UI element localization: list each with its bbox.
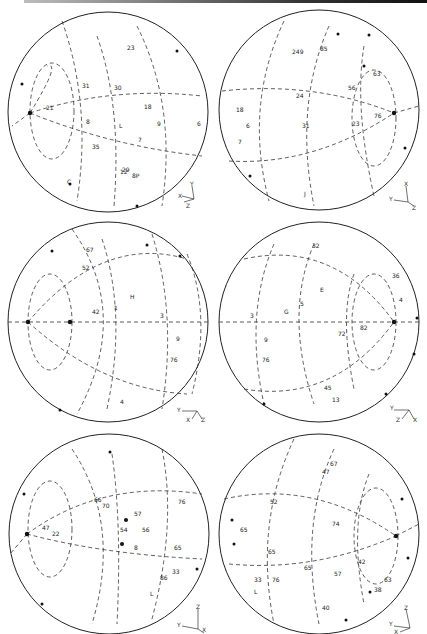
- pole-label: 65: [304, 564, 312, 571]
- pole-label: 70: [102, 502, 110, 509]
- pole-label: 76: [272, 576, 280, 583]
- pole-label: 74: [332, 520, 340, 527]
- pole-label: 76: [170, 356, 178, 363]
- pole-label: 6: [246, 122, 250, 129]
- pole-label: 33: [172, 568, 180, 575]
- pole-label: 40: [322, 604, 330, 611]
- axis-label: Z: [186, 202, 190, 209]
- pole-label: 18: [236, 106, 244, 113]
- pole-label: 13: [332, 396, 340, 403]
- pole-label: 7: [238, 138, 242, 145]
- pole-label: 3: [160, 312, 164, 319]
- axis-label: Y: [176, 621, 181, 628]
- pole-label: 4: [399, 296, 403, 303]
- axis-triad-icon: [182, 609, 204, 633]
- pole-label: E: [320, 286, 324, 293]
- stereogram-middle-left: 42 H 1 3 9 76 52 67 4 Y X Z: [2, 214, 212, 424]
- pole-label: 7: [138, 136, 142, 143]
- axis-label: Y: [388, 620, 393, 627]
- pole-label: L: [119, 122, 123, 129]
- pole-label: 9: [157, 120, 161, 127]
- axis-label: X: [413, 416, 417, 423]
- pole-label: L: [150, 590, 154, 597]
- pole-label: J: [303, 190, 306, 198]
- stereogram-bottom-right: 74 47 67 52 65 33 76 65 57 42 40 65 38 6…: [214, 424, 424, 634]
- stereogram-middle-right: 3 G 5 E 72 82 9 76 32 36 4 45 13 Y Z X: [214, 214, 424, 424]
- pole-label: 36: [392, 272, 400, 279]
- stereogram-top-left: 23 31 21 18 9 8 7 35 L 8P 6 12 30 29 C Y…: [2, 6, 212, 216]
- pole-label: 5: [300, 300, 304, 307]
- pole-label: 65: [174, 544, 182, 551]
- pole-label: 67: [330, 460, 338, 467]
- axis-label: X: [404, 180, 408, 187]
- stereogram-bottom-left: 47 22 66 70 54 57 56 65 8 86 33 76 L Z Y…: [2, 424, 212, 634]
- pole-label: 1: [114, 304, 118, 311]
- pole-label: 21: [46, 104, 54, 111]
- pole-label: 9: [264, 336, 268, 343]
- pole-label: 9: [176, 335, 180, 342]
- axis-label: Z: [404, 604, 408, 611]
- top-border-bar: [24, 0, 427, 3]
- pole-label: 76: [178, 498, 186, 505]
- pole-label: 23: [352, 120, 360, 127]
- pole-label: 8: [134, 544, 138, 551]
- axis-label: X: [394, 628, 398, 634]
- pole-label: 67: [86, 246, 94, 253]
- pole-label: L: [254, 588, 258, 595]
- axis-label: Y: [176, 406, 181, 413]
- stereogram-panel-top-left: 23 31 21 18 9 8 7 35 L 8P 6 12 30 29 C Y…: [2, 6, 212, 216]
- pole-label: 72: [338, 330, 346, 337]
- pole-label: 65: [268, 548, 276, 555]
- stereogram-panel-bottom-left: 47 22 66 70 54 57 56 65 8 86 33 76 L Z Y…: [2, 424, 212, 634]
- axis-label: Z: [201, 416, 205, 423]
- pole-label: 32: [312, 242, 320, 249]
- pole-label: 82: [360, 324, 368, 331]
- pole-label: 66: [94, 496, 102, 503]
- pole-label: 63: [373, 70, 381, 77]
- axis-triad-icon: [394, 186, 414, 206]
- stereogram-panel-bottom-right: 74 47 67 52 65 33 76 65 57 42 40 65 38 6…: [214, 424, 424, 634]
- pole-label: 56: [348, 84, 356, 91]
- pole-label: 47: [42, 524, 50, 531]
- pole-label: 45: [324, 384, 332, 391]
- pole-label: 8P: [132, 172, 140, 179]
- axis-label: Y: [389, 404, 394, 411]
- pole-label: 4: [120, 398, 124, 405]
- pole-label: 57: [334, 570, 342, 577]
- axis-label: Z: [196, 603, 200, 610]
- stereogram-panel-middle-right: 3 G 5 E 72 82 9 76 32 36 4 45 13 Y Z X: [214, 214, 424, 424]
- axis-label: Y: [189, 180, 194, 187]
- pole-label: 65: [240, 526, 248, 533]
- pole-label: 42: [92, 308, 100, 315]
- pole-label: 76: [262, 356, 270, 363]
- pole-label: 30: [114, 84, 122, 91]
- axis-label: X: [186, 416, 190, 423]
- pole-label: 56: [142, 526, 150, 533]
- pole-label: 52: [82, 264, 90, 271]
- pole-label: 24: [296, 92, 304, 99]
- axis-label: Z: [396, 416, 400, 423]
- pole-label: 18: [144, 103, 152, 110]
- axis-label: X: [202, 626, 206, 633]
- pole-label: 86: [160, 574, 168, 581]
- stereogram-top-right: 249 85 56 24 31 23 76 63 18 6 7 J X Y Z: [214, 6, 424, 216]
- pole-label: 23: [127, 44, 135, 51]
- pole-label: 31: [302, 122, 310, 129]
- axis-label: Y: [388, 195, 393, 202]
- stereogram-panel-middle-left: 42 H 1 3 9 76 52 67 4 Y X Z: [2, 214, 212, 424]
- pole-label: 76: [374, 112, 382, 119]
- axis-triad-icon: [182, 186, 194, 202]
- pole-label: 52: [270, 498, 278, 505]
- pole-label: 54: [120, 526, 128, 533]
- pole-label: 22: [52, 530, 60, 537]
- pole-label: H: [130, 293, 135, 300]
- pole-label: 31: [82, 82, 90, 89]
- pole-label: 3: [250, 312, 254, 319]
- pole-label: 85: [320, 45, 328, 52]
- stereogram-panel-top-right: 249 85 56 24 31 23 76 63 18 6 7 J X Y Z: [214, 6, 424, 216]
- pole-label: G: [284, 308, 289, 315]
- pole-label: 42: [358, 558, 366, 565]
- pole-label: 8: [86, 118, 90, 125]
- axis-triad-icon: [182, 411, 202, 419]
- pole-label: 57: [134, 510, 142, 517]
